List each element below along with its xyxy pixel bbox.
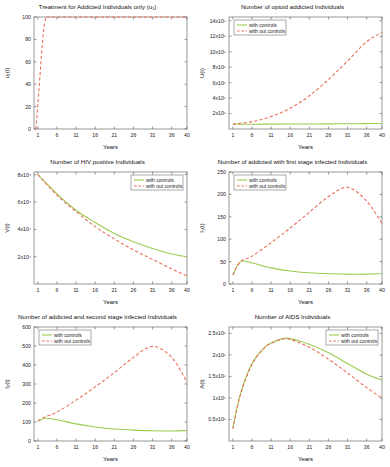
x-tick-label: 40	[184, 287, 190, 293]
subplot-title: Number of addicted and second stage infe…	[18, 313, 177, 320]
x-tick-label: 11	[268, 132, 273, 138]
x-tick-label: 40	[184, 444, 190, 450]
x-axis-label: Years	[298, 456, 313, 462]
subplot-2: Number of opioid addicted Individuals161…	[195, 0, 390, 155]
x-tick-label: 6	[251, 132, 254, 138]
y-tick-label: 1.5x10⁵	[208, 373, 226, 379]
series-line	[233, 261, 382, 275]
y-tick-label: 0.5x10⁵	[208, 416, 226, 422]
y-tick-label: 12x10⁵	[210, 33, 226, 39]
series-line	[233, 187, 382, 275]
x-tick-label: 40	[379, 132, 385, 138]
subplot-title: Number of addicted with first stage infe…	[218, 158, 368, 165]
subplot-title: Number of opioid addicted Individuals	[241, 3, 344, 10]
plot-frame	[34, 17, 187, 129]
y-tick-label: 600	[22, 324, 31, 330]
x-tick-label: 21	[111, 287, 117, 293]
x-tick-label: 1	[231, 287, 234, 293]
x-tick-label: 16	[287, 444, 293, 450]
subplot-6: Number of AIDS Individuals16111621263136…	[195, 310, 390, 467]
subplot-4: Number of addicted with first stage infe…	[195, 155, 390, 310]
y-tick-label: 400	[22, 362, 31, 368]
subplot-title: Number of AIDS Individuals	[255, 313, 331, 320]
y-tick-label: 1x10⁵	[213, 395, 226, 401]
x-tick-label: 31	[150, 132, 156, 138]
y-axis-label: I₂(t)	[4, 379, 10, 389]
y-tick-label: 8x10⁴	[18, 172, 31, 178]
y-tick-label: 0	[223, 281, 226, 287]
y-tick-label: 40	[25, 81, 31, 87]
legend: with controlswith out controls	[234, 20, 286, 35]
x-tick-label: 40	[184, 132, 190, 138]
subplot-5: Number of addicted and second stage infe…	[0, 310, 195, 467]
x-tick-label: 21	[306, 287, 312, 293]
x-tick-label: 31	[345, 132, 351, 138]
legend-label: with out controls	[54, 338, 91, 344]
x-tick-label: 31	[345, 287, 351, 293]
subplot-3: Number of HIV positive Individuals161116…	[0, 155, 195, 310]
x-tick-label: 36	[364, 444, 370, 450]
y-tick-label: 2.5x10⁵	[208, 330, 226, 336]
y-tick-label: 0	[28, 126, 31, 132]
y-tick-label: 100	[217, 236, 226, 242]
x-tick-label: 21	[306, 132, 312, 138]
y-tick-label: 6x10⁵	[213, 80, 226, 86]
y-tick-label: 6x10⁴	[18, 199, 31, 205]
y-tick-label: 80	[25, 36, 31, 42]
y-axis-label: U(t)	[199, 68, 205, 78]
x-tick-label: 21	[306, 444, 312, 450]
series-line	[38, 418, 187, 431]
series-line	[233, 339, 382, 429]
series-line	[36, 17, 187, 129]
y-tick-label: 100	[22, 14, 31, 20]
x-tick-label: 21	[111, 444, 117, 450]
y-tick-label: 200	[22, 400, 31, 406]
series-line	[38, 346, 187, 421]
x-tick-label: 26	[131, 287, 137, 293]
x-tick-label: 16	[92, 444, 98, 450]
x-tick-label: 40	[379, 287, 385, 293]
x-tick-label: 1	[231, 444, 234, 450]
subplot-title: Number of HIV positive Individuals	[50, 158, 145, 165]
y-tick-label: 4x10⁴	[18, 226, 31, 232]
x-tick-label: 6	[56, 287, 59, 293]
legend-label: with out controls	[341, 338, 378, 344]
subplot-1: Treatment for Addicted Individuals only …	[0, 0, 195, 155]
x-tick-label: 26	[326, 444, 332, 450]
x-tick-label: 16	[287, 287, 293, 293]
x-tick-label: 31	[345, 444, 351, 450]
x-tick-label: 6	[56, 132, 59, 138]
y-axis-label: V(t)	[4, 223, 10, 233]
y-tick-label: 60	[25, 59, 31, 65]
x-tick-label: 36	[169, 287, 175, 293]
x-tick-label: 16	[92, 132, 98, 138]
x-axis-label: Years	[298, 144, 313, 150]
x-tick-label: 1	[36, 287, 39, 293]
x-tick-label: 26	[131, 444, 137, 450]
series-line	[233, 338, 382, 428]
x-axis-label: Years	[103, 299, 118, 305]
y-axis-label: I₁(t)	[199, 223, 205, 232]
x-tick-label: 11	[73, 444, 78, 450]
y-tick-label: 0	[28, 438, 31, 444]
y-tick-label: 50	[220, 259, 226, 265]
y-tick-label: 500	[22, 343, 31, 349]
x-tick-label: 26	[326, 132, 332, 138]
x-tick-label: 16	[287, 132, 293, 138]
x-tick-label: 16	[92, 287, 98, 293]
x-tick-label: 26	[326, 287, 332, 293]
x-axis-label: Years	[103, 456, 118, 462]
y-tick-label: 200	[217, 191, 226, 197]
x-tick-label: 36	[169, 444, 175, 450]
x-axis-label: Years	[103, 144, 118, 150]
x-tick-label: 1	[36, 132, 39, 138]
y-tick-label: 250	[217, 169, 226, 175]
x-tick-label: 11	[268, 444, 273, 450]
y-tick-label: 20	[25, 104, 31, 110]
y-tick-label: 100	[22, 419, 31, 425]
x-tick-label: 11	[73, 132, 78, 138]
y-tick-label: 2x10⁵	[213, 110, 226, 116]
x-tick-label: 31	[150, 287, 156, 293]
x-tick-label: 36	[364, 132, 370, 138]
x-tick-label: 21	[111, 132, 117, 138]
